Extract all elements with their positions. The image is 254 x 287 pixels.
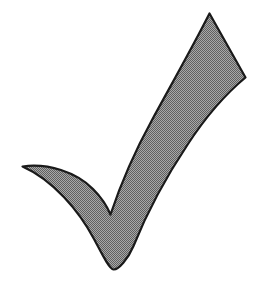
image-canvas: Check Mark Hand-drawn style check mark (… xyxy=(0,0,254,287)
checkmark-graphic: Check Mark Hand-drawn style check mark (… xyxy=(0,0,254,287)
